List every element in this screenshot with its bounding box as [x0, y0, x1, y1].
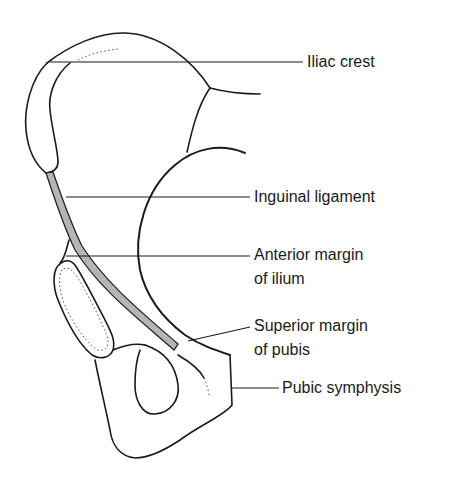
label-pubic-symphysis: Pubic symphysis — [282, 376, 401, 400]
pubic-crest-dotted — [204, 378, 209, 397]
ilium-posterior-outline — [187, 88, 210, 152]
pubis-outline — [113, 344, 145, 350]
iliac-crest-outline — [47, 33, 210, 88]
hip-bone-diagram: Iliac crest Inguinal ligament Anterior m… — [0, 0, 455, 487]
label-iliac-crest: Iliac crest — [307, 50, 375, 74]
label-inguinal-ligament: Inguinal ligament — [254, 185, 375, 209]
leader-superior-margin — [188, 327, 250, 341]
greater-sciatic-notch-line — [210, 88, 260, 94]
anterior-inferior-outline — [60, 240, 69, 263]
obturator-foramen — [135, 345, 178, 414]
iliac-inner-outline — [46, 63, 70, 173]
hip-bone-illustration — [0, 0, 455, 487]
iliac-crest-dotted-line — [78, 49, 118, 60]
pubis-right-edge — [95, 355, 232, 458]
label-anterior-margin-of-ilium: Anterior margin of ilium — [254, 243, 363, 291]
label-superior-margin-of-pubis: Superior margin of pubis — [254, 314, 368, 362]
anterior-superior-iliac-spine-outline — [26, 63, 47, 173]
pubic-crest-line — [178, 355, 204, 378]
